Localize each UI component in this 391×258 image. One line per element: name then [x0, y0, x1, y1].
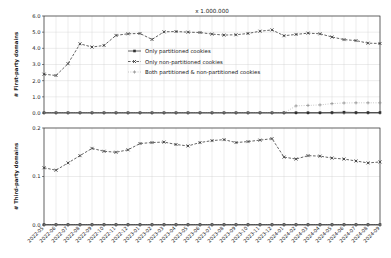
y-tick-label: 1.0 — [32, 94, 40, 100]
y-tick-label: 0.0 — [32, 110, 40, 116]
data-point — [133, 50, 136, 53]
y-tick-label: 0.2 — [32, 125, 40, 131]
y-tick-label: 2.0 — [32, 78, 40, 84]
data-point — [366, 101, 369, 104]
y-tick-label: 0.1 — [32, 173, 40, 179]
data-point — [294, 104, 297, 107]
legend-label: Only non-partitioned cookies — [145, 59, 223, 66]
x-axis-labels: 2022-052022-062022-072022-082022-092022-… — [26, 225, 381, 244]
y-tick-label: 3.0 — [32, 61, 40, 67]
chart-canvas: 0.01.02.03.04.05.06.0# First-party domai… — [0, 0, 391, 258]
data-point — [342, 101, 345, 104]
panel-third-party: 0.00.10.2# Third-party domains — [13, 125, 382, 228]
data-point — [354, 101, 357, 104]
y-axis-title: # First-party domains — [13, 32, 20, 97]
figure: 0.01.02.03.04.05.06.0# First-party domai… — [0, 0, 391, 258]
chart-title: x 1.000.000 — [195, 8, 229, 14]
legend-label: Only partitioned cookies — [145, 48, 211, 55]
legend: Only partitioned cookiesOnly non-partiti… — [128, 48, 260, 76]
data-point — [330, 102, 333, 105]
y-tick-label: 5.0 — [32, 29, 40, 35]
y-tick-label: 4.0 — [32, 45, 40, 51]
data-point — [378, 101, 381, 104]
y-axis-title: # Third-party domains — [13, 143, 20, 210]
legend-label: Both partitioned & non-partitioned cooki… — [145, 69, 260, 76]
data-point — [133, 70, 136, 73]
y-tick-label: 6.0 — [32, 13, 40, 19]
data-point — [318, 103, 321, 106]
data-point — [306, 104, 309, 107]
